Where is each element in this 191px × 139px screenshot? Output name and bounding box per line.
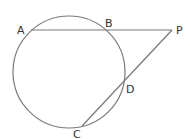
diagram-canvas: A B P D C (0, 0, 191, 139)
point-label-c: C (73, 128, 81, 139)
circle-secant-diagram: A B P D C (0, 0, 191, 139)
secant-line-cp (82, 30, 172, 126)
point-label-p: P (176, 24, 183, 37)
point-label-d: D (126, 83, 134, 96)
point-label-a: A (17, 24, 25, 37)
point-label-b: B (105, 17, 113, 30)
circle (13, 16, 125, 128)
